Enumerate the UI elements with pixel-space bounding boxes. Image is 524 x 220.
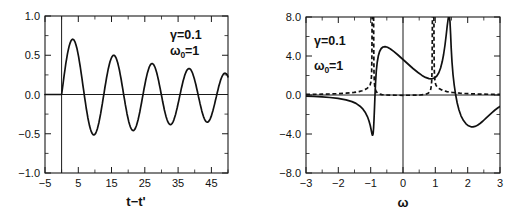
right-annotation-omega0: ω 0 =1 (314, 59, 343, 75)
left-x-ticklabels: −5 5 15 25 35 45 (39, 177, 218, 189)
left-plot-svg: 1.0 0.5 0.0 −0.5 −1.0 −5 5 15 25 35 45 t… (0, 0, 262, 220)
right-y-ticklabels: 8.0 4.0 0.0 −4.0 −8.0 (279, 11, 301, 179)
chart-panel-right: 8.0 4.0 0.0 −4.0 −8.0 −3 −2 −1 0 1 2 3 ω… (262, 0, 524, 220)
left-annotation-omega0: ω 0 =1 (170, 44, 199, 60)
right-plot-svg: 8.0 4.0 0.0 −4.0 −8.0 −3 −2 −1 0 1 2 3 ω… (262, 0, 524, 220)
right-xticklabel-4: 1 (432, 177, 438, 189)
right-xticklabel-1: −2 (332, 177, 345, 189)
right-annotation-gamma: γ=0.1 (314, 34, 346, 48)
left-annotation-omega-value: =1 (185, 44, 199, 58)
right-xticklabel-6: 3 (497, 177, 503, 189)
right-annotation-omega-value: =1 (329, 59, 343, 73)
figure-root: 1.0 0.5 0.0 −0.5 −1.0 −5 5 15 25 35 45 t… (0, 0, 524, 220)
right-xticklabel-0: −3 (300, 177, 313, 189)
left-yticklabel-4: 1.0 (25, 10, 40, 22)
chart-panel-left: 1.0 0.5 0.0 −0.5 −1.0 −5 5 15 25 35 45 t… (0, 0, 262, 220)
left-yticklabel-1: −0.5 (18, 128, 40, 140)
right-yticklabel-2: 0.0 (286, 89, 301, 101)
left-xticklabel-5: 45 (205, 177, 217, 189)
left-xticklabel-2: 15 (105, 177, 117, 189)
left-xticklabel-4: 35 (172, 177, 184, 189)
right-yticklabel-1: −4.0 (279, 128, 301, 140)
left-yticklabel-3: 0.5 (25, 49, 40, 61)
left-response-curve (45, 39, 228, 135)
left-annotation-gamma: γ=0.1 (170, 28, 202, 42)
right-xticklabel-3: 0 (400, 177, 406, 189)
right-xaxis-title: ω (398, 195, 409, 210)
right-annotation-omega-symbol: ω (314, 59, 325, 73)
right-yticklabel-0: −8.0 (279, 167, 301, 179)
right-yticklabel-4: 8.0 (286, 11, 301, 23)
left-y-ticklabels: 1.0 0.5 0.0 −0.5 −1.0 (18, 10, 40, 179)
left-yticklabel-2: 0.0 (25, 89, 40, 101)
left-yticklabel-0: −1.0 (18, 167, 40, 179)
right-xticklabel-5: 2 (465, 177, 471, 189)
left-annotation-omega-symbol: ω (170, 44, 181, 58)
left-xticklabel-0: −5 (39, 177, 52, 189)
right-x-ticklabels: −3 −2 −1 0 1 2 3 (300, 177, 503, 189)
left-xaxis-title: t−t' (126, 194, 145, 209)
right-xticklabel-2: −1 (364, 177, 377, 189)
left-xticklabel-1: 5 (75, 177, 81, 189)
right-yticklabel-3: 4.0 (286, 50, 301, 62)
left-xticklabel-3: 25 (139, 177, 151, 189)
